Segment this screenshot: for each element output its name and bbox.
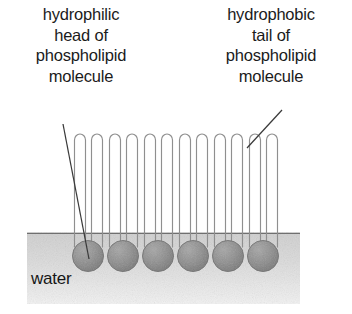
tail (127, 134, 138, 247)
phospholipid-head (143, 241, 174, 272)
tail (197, 134, 208, 247)
tail (250, 134, 261, 247)
label-water: water (31, 269, 72, 289)
tail (180, 134, 191, 247)
phospholipid-head (108, 241, 139, 272)
phospholipid-head (178, 241, 209, 272)
tail (162, 134, 173, 247)
diagram-svg (0, 0, 352, 314)
tail-group (75, 134, 278, 247)
tail (267, 134, 278, 247)
tail (92, 134, 103, 247)
tail (110, 134, 121, 247)
tail (145, 134, 156, 247)
tail-leader-line (247, 110, 282, 148)
tail (215, 134, 226, 247)
tail (232, 134, 243, 247)
phospholipid-head (213, 241, 244, 272)
phospholipid-head (248, 241, 279, 272)
figure-canvas: hydrophilic head of phospholipid molecul… (0, 0, 352, 314)
